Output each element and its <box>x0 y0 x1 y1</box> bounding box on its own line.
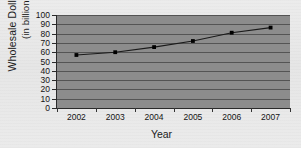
data-point-marker <box>191 39 195 43</box>
data-series-line <box>0 0 301 148</box>
data-point-marker <box>152 45 156 49</box>
data-point-marker <box>269 26 273 30</box>
x-axis-title: Year <box>0 128 301 140</box>
data-point-marker <box>113 50 117 54</box>
data-point-marker <box>75 53 79 57</box>
line-chart: Wholesale Dollar Value (in billions) 100… <box>0 0 301 148</box>
data-point-marker <box>230 31 234 35</box>
data-point-markers <box>75 26 273 57</box>
